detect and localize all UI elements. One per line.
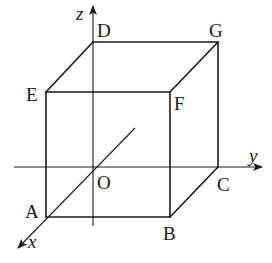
edge-ED (46, 42, 93, 92)
edge-FG (170, 42, 218, 92)
vertex-label-A: A (25, 201, 39, 222)
vertex-label-G: G (209, 20, 223, 41)
z-axis-label: z (75, 3, 84, 24)
vertex-label-C: C (217, 174, 230, 195)
edge-BC (170, 167, 218, 217)
origin-label-O: O (97, 172, 111, 193)
x-axis-label: x (27, 231, 37, 252)
vertex-label-B: B (163, 223, 176, 244)
cube-diagram-svg: z y x D G E F O C A B (0, 0, 272, 263)
cube-diagram: z y x D G E F O C A B (0, 0, 272, 263)
vertex-label-F: F (174, 93, 185, 114)
vertex-label-E: E (26, 84, 38, 105)
x-axis (18, 128, 135, 248)
y-axis-label: y (247, 145, 258, 166)
vertex-label-D: D (97, 20, 111, 41)
